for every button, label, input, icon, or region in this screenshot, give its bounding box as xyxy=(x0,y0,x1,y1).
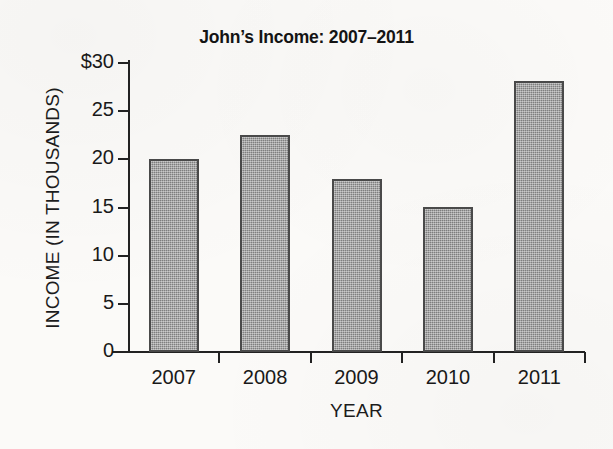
y-tick-mark xyxy=(118,303,129,305)
y-tick-label-wrap: 15 xyxy=(36,195,114,215)
y-tick-label-wrap: 0 xyxy=(36,339,114,359)
x-tick-mark xyxy=(584,352,586,363)
bar-2011 xyxy=(514,81,564,352)
y-tick-mark xyxy=(118,62,129,64)
bar-2009 xyxy=(332,179,382,352)
y-tick-mark xyxy=(118,207,129,209)
y-tick-label: 0 xyxy=(40,339,114,362)
y-tick-mark xyxy=(118,110,129,112)
y-tick-mark xyxy=(118,351,129,353)
bar-2010 xyxy=(423,207,473,352)
y-tick-label-wrap: $30 xyxy=(36,50,114,70)
y-tick-label-wrap: 10 xyxy=(36,243,114,263)
bar-2008 xyxy=(240,135,290,352)
y-tick-mark xyxy=(118,255,129,257)
x-tick-mark xyxy=(401,352,403,363)
y-tick-label: $30 xyxy=(40,50,114,73)
y-tick-label-wrap: 20 xyxy=(36,146,114,166)
x-tick-label-2010: 2010 xyxy=(403,366,493,389)
x-tick-mark xyxy=(493,352,495,363)
y-tick-label: 20 xyxy=(40,146,114,169)
x-tick-mark xyxy=(310,352,312,363)
y-tick-label: 15 xyxy=(40,195,114,218)
y-tick-label: 5 xyxy=(40,291,114,314)
x-tick-label-2009: 2009 xyxy=(312,366,402,389)
y-tick-mark xyxy=(118,158,129,160)
x-tick-label-2008: 2008 xyxy=(220,366,310,389)
y-tick-label-wrap: 5 xyxy=(36,291,114,311)
chart-title: John’s Income: 2007–2011 xyxy=(0,27,613,48)
bar-2007 xyxy=(149,159,199,352)
y-tick-label: 10 xyxy=(40,243,114,266)
x-tick-mark xyxy=(218,352,220,363)
x-tick-label-2007: 2007 xyxy=(129,366,219,389)
x-tick-label-2011: 2011 xyxy=(494,366,584,389)
bar-chart-figure: John’s Income: 2007–2011 INCOME (IN THOU… xyxy=(0,0,613,449)
y-tick-label: 25 xyxy=(40,98,114,121)
y-tick-label-wrap: 25 xyxy=(36,98,114,118)
x-axis-title: YEAR xyxy=(128,400,585,422)
